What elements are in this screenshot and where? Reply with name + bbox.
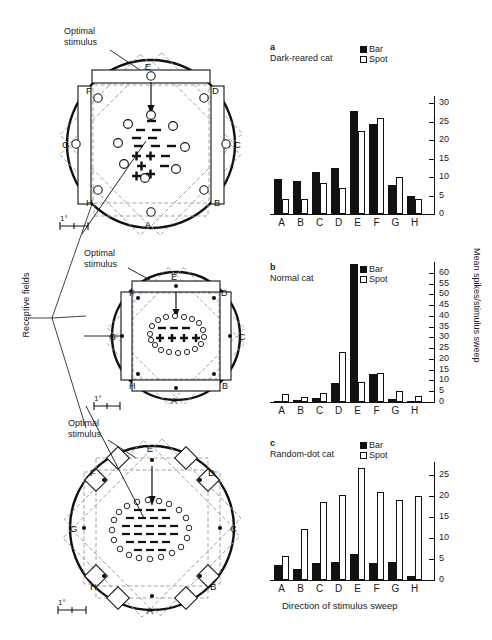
y-tick-c-0 (429, 580, 434, 581)
y-tick-c-20 (429, 496, 434, 497)
y-tick-label-c-5: 5 (439, 553, 444, 563)
chart-panel-c: cRandom-dot catBarSpot0510152025ABCDEFGH (0, 0, 492, 640)
bar-c-B-bar (293, 569, 301, 580)
y-tick-c-25 (429, 475, 434, 476)
bar-c-B-spot (301, 529, 309, 580)
bar-c-F-spot (377, 492, 385, 581)
bar-c-A-bar (274, 565, 282, 580)
panel-title-c: Random-dot cat (270, 449, 334, 459)
legend-item-spot: Spot (360, 450, 388, 460)
x-tick-label-c-H: H (403, 583, 426, 594)
legend-label-bar: Bar (369, 440, 383, 450)
bar-c-E-bar (350, 554, 358, 580)
legend-label-spot: Spot (369, 450, 388, 460)
y-tick-label-c-10: 10 (439, 532, 449, 542)
y-tick-label-c-15: 15 (439, 511, 449, 521)
y-tick-label-c-0: 0 (439, 574, 444, 584)
bar-c-D-bar (331, 562, 339, 580)
legend-swatch-spot-icon (360, 452, 367, 459)
bar-c-C-spot (320, 502, 328, 580)
legend-swatch-bar-icon (360, 442, 367, 449)
legend-c: BarSpot (360, 440, 388, 460)
bar-c-A-spot (282, 556, 290, 580)
panel-letter-c: c (270, 438, 275, 448)
y-axis-title: Mean spikes/stimulus sweep (472, 248, 482, 363)
bar-c-H-bar (407, 576, 415, 580)
y-tick-label-c-25: 25 (439, 469, 449, 479)
bar-c-G-spot (396, 500, 404, 580)
bar-c-H-spot (415, 496, 423, 580)
bar-c-E-spot (358, 468, 366, 580)
x-axis-title: Direction of stimulus sweep (282, 600, 398, 611)
bar-c-G-bar (388, 562, 396, 580)
bar-c-D-spot (339, 495, 347, 580)
y-tick-c-10 (429, 538, 434, 539)
bar-c-F-bar (369, 563, 377, 580)
y-tick-c-15 (429, 517, 434, 518)
legend-item-bar: Bar (360, 440, 388, 450)
y-tick-c-5 (429, 559, 434, 560)
y-axis-line-c (434, 462, 435, 581)
bar-c-C-bar (312, 563, 320, 580)
figure-root: Receptive fields Optimal stimulus (0, 0, 492, 640)
y-tick-label-c-20: 20 (439, 490, 449, 500)
x-axis-line-c (270, 580, 430, 581)
